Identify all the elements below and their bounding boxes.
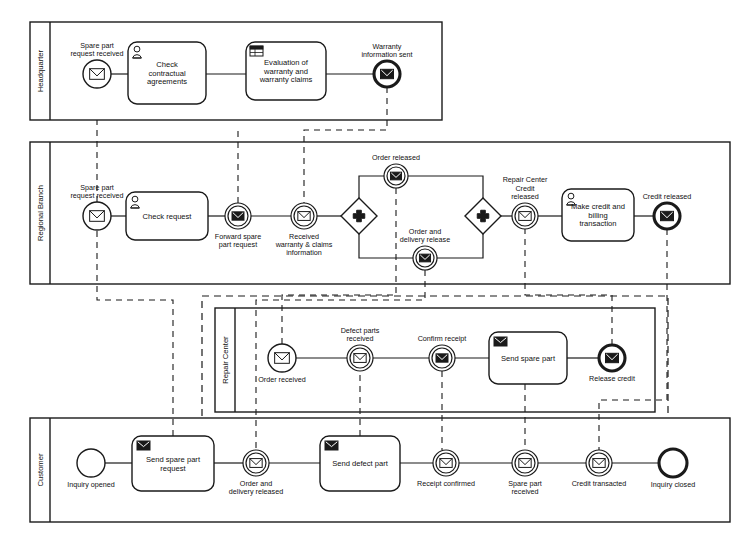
bpmn-svg-root: HeadquarterRegional BranchRepair CenterC… <box>0 0 738 538</box>
evaluation-of-warranty-and-warranty-claims-business-rule-table-icon-header <box>250 46 263 49</box>
check-contractual-agreements-user-icon-head <box>134 46 140 52</box>
evaluation-of-warranty-and-warranty-claims-label: Evaluation ofwarranty andwarranty claims <box>259 58 313 85</box>
forward-spare-part-request-label: Forward sparepart request <box>215 232 261 249</box>
inquiry-closed-label: Inquiry closed <box>651 480 695 489</box>
send-spare-part-label: Send spare part <box>501 354 556 363</box>
order-received-label: Order received <box>258 375 306 384</box>
make-credit-and-billing-transaction-user-icon-head <box>568 193 574 199</box>
make-credit-and-billing-transaction[interactable]: Make credit andbillingtransaction <box>562 189 634 241</box>
send-defect-part-label: Send defect part <box>332 459 389 468</box>
receipt-confirmed-label: Receipt confirmed <box>417 479 475 488</box>
release-credit-label: Release credit <box>589 374 635 383</box>
confirm-receipt-label: Confirm receipt <box>418 334 467 343</box>
evaluation-of-warranty-and-warranty-claims[interactable]: Evaluation ofwarranty andwarranty claims <box>246 42 326 100</box>
send-spare-part-request[interactable]: Send spare partrequest <box>132 436 214 491</box>
pool-repair-center-label: Repair Center <box>221 336 230 384</box>
spare-part-received-label: Spare partreceived <box>508 479 542 496</box>
inquiry-closed-ring <box>659 449 687 477</box>
bpmn-diagram-canvas: HeadquarterRegional BranchRepair CenterC… <box>0 0 738 538</box>
order-released-label: Order released <box>372 153 420 162</box>
inquiry-opened-label: Inquiry opened <box>67 480 115 489</box>
check-request[interactable]: Check request <box>126 192 208 240</box>
evaluation-of-warranty-and-warranty-claims-business-rule-table-icon <box>250 46 263 56</box>
check-contractual-agreements[interactable]: Checkcontractualagreements <box>128 42 206 104</box>
check-request-label: Check request <box>143 212 193 221</box>
pool-customer-label: Customer <box>36 453 45 486</box>
inquiry-opened-ring <box>77 449 105 477</box>
send-defect-part[interactable]: Send defect part <box>320 436 400 491</box>
send-spare-part[interactable]: Send spare part <box>489 332 567 384</box>
check-request-user-icon-head <box>132 196 138 202</box>
check-request-user-icon-body <box>131 205 140 208</box>
pool-headquarter-label: Headquarter <box>36 49 45 92</box>
credit-transacted-label: Credit transacted <box>572 479 627 488</box>
pool-regional-branch-label: Regional Branch <box>36 185 45 241</box>
check-contractual-agreements-user-icon-body <box>133 55 142 58</box>
credit-released-label: Credit released <box>643 192 692 201</box>
